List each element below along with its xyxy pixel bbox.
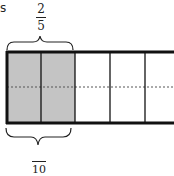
fraction-diagram — [0, 0, 174, 176]
bottom-fraction: 10 — [31, 161, 47, 175]
top-brace-icon — [7, 36, 73, 50]
bottom-fraction-denominator: 10 — [31, 164, 47, 175]
bottom-brace-icon — [6, 128, 71, 145]
fraction-bar — [32, 161, 46, 162]
